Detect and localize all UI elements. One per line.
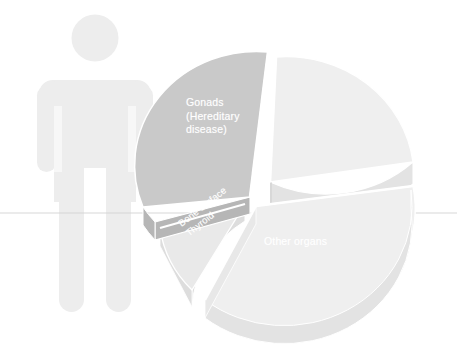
pie-slice-gonads[interactable]: [135, 52, 268, 240]
pie-slice-gonads-side-arc: [143, 207, 155, 240]
pie-chart: [0, 0, 457, 345]
chart-canvas: Gonads(Hereditarydisease) Other organs B…: [0, 0, 457, 345]
pie-slice-other-organs-top: [270, 57, 413, 182]
pie-slice-gonads-top: [135, 52, 268, 207]
